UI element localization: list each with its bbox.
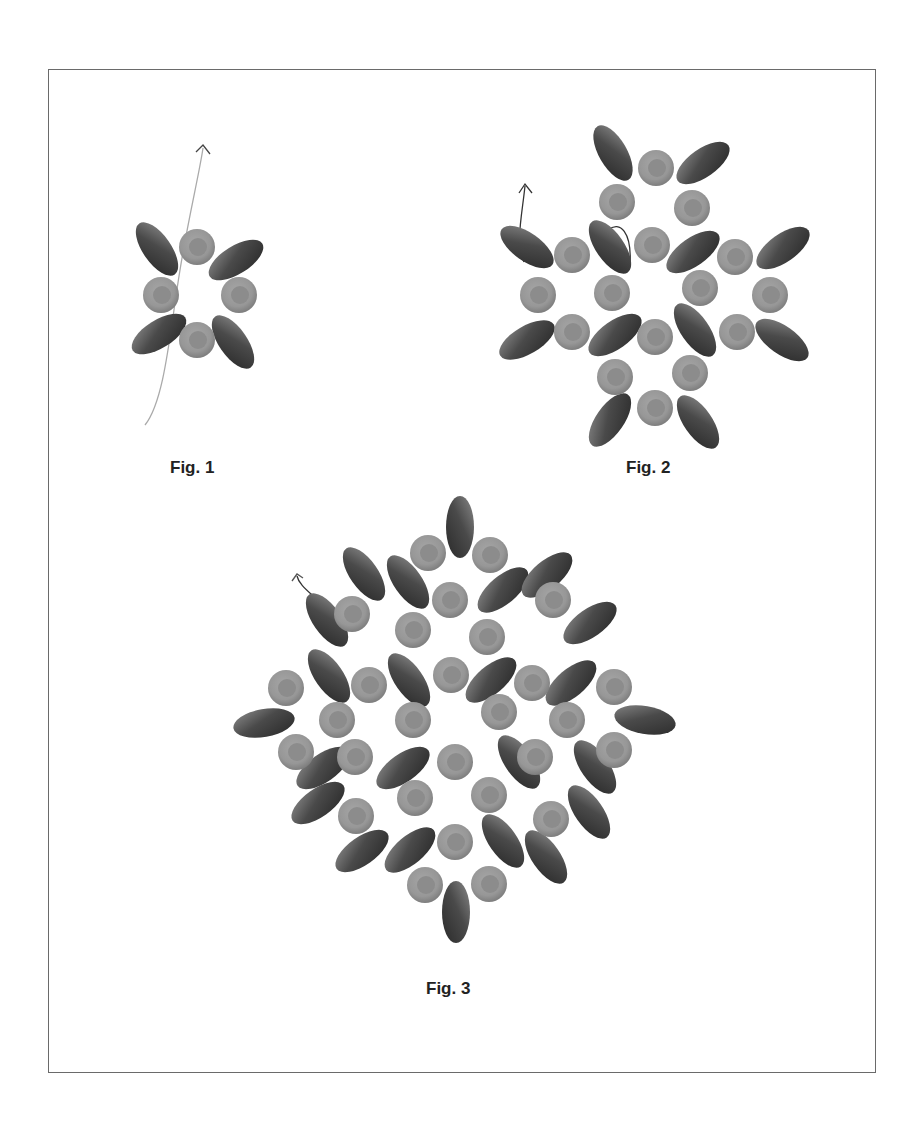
figure-2-label: Fig. 2 [626,458,670,478]
round-bead [535,582,571,618]
round-bead [437,744,473,780]
round-bead [351,667,387,703]
oval-bead [750,219,817,277]
round-bead [471,777,507,813]
round-bead [597,359,633,395]
oval-bead [749,311,816,369]
round-bead [752,277,788,313]
figure-2-beads [493,119,816,455]
round-bead [520,277,556,313]
round-bead [179,229,215,265]
round-bead [337,739,373,775]
round-bead [596,669,632,705]
oval-bead [474,808,532,875]
round-bead [471,866,507,902]
round-bead [719,314,755,350]
round-bead [717,239,753,275]
figure-3-beads [231,496,678,943]
round-bead [481,694,517,730]
oval-bead [494,218,561,276]
round-bead [268,670,304,706]
oval-bead [446,496,474,558]
round-bead [338,798,374,834]
round-bead [554,314,590,350]
round-bead [637,390,673,426]
round-bead [319,702,355,738]
oval-bead [670,134,737,192]
figure-1-label: Fig. 1 [170,458,214,478]
round-bead [221,277,257,313]
round-bead [179,322,215,358]
oval-bead [128,216,186,283]
round-bead [472,537,508,573]
round-bead [599,184,635,220]
round-bead [437,824,473,860]
round-bead [638,150,674,186]
round-bead [410,535,446,571]
round-bead [596,732,632,768]
round-bead [432,582,468,618]
round-bead [634,227,670,263]
oval-bead [493,312,561,367]
round-bead [334,596,370,632]
round-bead [682,270,718,306]
round-bead [407,867,443,903]
round-bead [278,734,314,770]
round-bead [395,612,431,648]
round-bead [397,780,433,816]
round-bead [514,665,550,701]
oval-bead [581,214,639,281]
round-bead [143,277,179,313]
round-bead [469,619,505,655]
round-bead [594,275,630,311]
round-bead [549,702,585,738]
round-bead [637,319,673,355]
oval-bead [335,541,393,608]
round-bead [674,190,710,226]
figure-3-label: Fig. 3 [426,979,470,999]
oval-bead [581,387,639,454]
round-bead [554,237,590,273]
round-bead [672,355,708,391]
oval-bead [300,643,358,710]
oval-bead [612,701,678,739]
round-bead [433,657,469,693]
round-bead [395,702,431,738]
figure-1-beads [125,145,269,425]
oval-bead [442,881,470,943]
oval-bead [585,119,640,187]
oval-bead [666,297,724,364]
thread-path [519,184,532,193]
beading-diagram [0,0,919,1123]
round-bead [533,801,569,837]
oval-bead [669,389,727,456]
round-bead [517,739,553,775]
